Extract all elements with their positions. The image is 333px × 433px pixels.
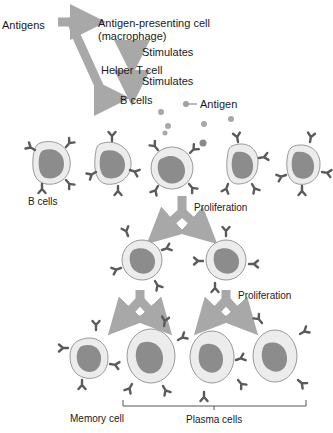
plasma-cell-3 (253, 314, 310, 389)
apc-label-line1: Antigen-presenting cell (98, 17, 210, 29)
b-cell-5 (276, 133, 331, 195)
floating-antigens (158, 109, 234, 136)
plasma-cells-bracket (123, 400, 306, 410)
b-cell-1 (25, 138, 74, 193)
apc-label-line2: (macrophage) (98, 30, 166, 42)
diagram-graphics (0, 0, 333, 433)
b-cell-3-antigen-bound (150, 140, 207, 196)
daughter-cell-1 (111, 226, 171, 290)
antigen-legend-icon (183, 101, 197, 107)
stimulates-label-1: Stimulates (142, 46, 193, 58)
proliferation-arrow-2a (120, 290, 160, 322)
b-cells-row-label: B cells (28, 196, 57, 208)
proliferation-label-2: Proliferation (238, 290, 291, 302)
memory-cell (59, 321, 119, 389)
daughter-cell-2 (194, 227, 258, 292)
plasma-cell-2 (190, 331, 246, 401)
stimulates-label-2: Stimulates (142, 75, 193, 87)
memory-cell-label: Memory cell (70, 413, 124, 425)
antigen-legend-label: Antigen (200, 98, 237, 110)
proliferation-label-1: Proliferation (194, 202, 247, 214)
diagram-canvas: Antigens Antigen-presenting cell (macrop… (0, 0, 333, 433)
b-cells-top-label: B cells (120, 94, 152, 106)
b-cell-2 (86, 132, 139, 195)
plasma-cell-1 (124, 317, 187, 396)
b-cell-4 (222, 133, 269, 194)
plasma-cells-label: Plasma cells (186, 414, 242, 426)
antigens-label: Antigens (2, 19, 45, 31)
